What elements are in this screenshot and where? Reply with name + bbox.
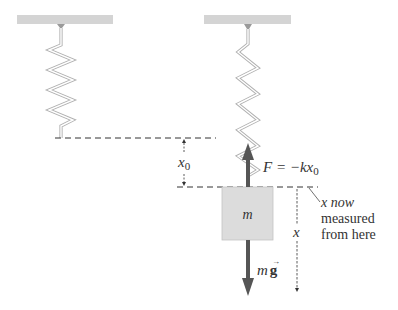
left-spring-mount [57, 24, 65, 28]
spring-mass-diagram: x0 m F = −kx0 mg → x x now measured from… [0, 0, 398, 310]
gravity-force-arrowhead [242, 278, 254, 296]
annotation-note: x now measured from here [320, 195, 378, 242]
left-ceiling [17, 15, 113, 24]
annotation-leader [309, 188, 320, 202]
spring-force-label: F = −kx0 [262, 159, 319, 177]
x0-label: x0 [177, 154, 191, 172]
right-ceiling [204, 15, 291, 24]
right-spring-mount [244, 24, 252, 29]
vector-arrow-icon: → [272, 257, 280, 266]
x-axis-label: x [292, 224, 300, 240]
mass-label: m [242, 207, 252, 222]
